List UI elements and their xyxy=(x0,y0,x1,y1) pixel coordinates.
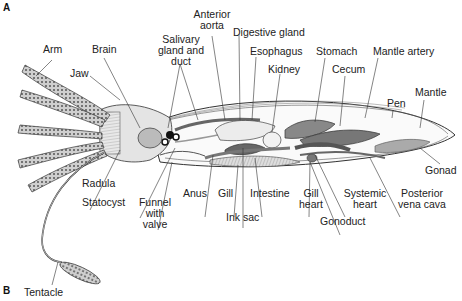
label-gill-heart: Gill heart xyxy=(299,188,323,210)
panel-label-b: B xyxy=(3,285,10,296)
label-posterior-vena-cava: Posterior vena cava xyxy=(396,188,448,210)
label-tentacle: Tentacle xyxy=(24,287,63,298)
label-mantle-artery: Mantle artery xyxy=(373,46,434,57)
label-gonad: Gonad xyxy=(425,165,457,176)
label-esophagus: Esophagus xyxy=(250,46,303,57)
label-gonoduct: Gonoduct xyxy=(320,216,366,227)
label-radula: Radula xyxy=(82,178,115,189)
label-ink-sac: Ink sac xyxy=(226,212,259,223)
panel-label-a: A xyxy=(3,2,10,13)
label-digestive-gland: Digestive gland xyxy=(233,27,305,38)
label-systemic-heart: Systemic heart xyxy=(343,188,387,210)
label-jaw: Jaw xyxy=(70,68,89,79)
squid-anatomy-diagram: A B Arm Brain Jaw Salivary gland and duc… xyxy=(0,0,462,301)
label-salivary-gland: Salivary gland and duct xyxy=(156,34,206,67)
label-mantle: Mantle xyxy=(415,87,447,98)
label-anterior-aorta: Anterior aorta xyxy=(190,9,234,31)
label-funnel-with-valve: Funnel with valve xyxy=(138,197,172,230)
arms xyxy=(18,65,110,192)
label-gill: Gill xyxy=(218,188,233,199)
label-brain: Brain xyxy=(92,44,117,55)
label-cecum: Cecum xyxy=(332,64,365,75)
label-stomach: Stomach xyxy=(316,46,357,57)
label-arm: Arm xyxy=(43,44,62,55)
label-statocyst: Statocyst xyxy=(82,197,125,208)
label-pen: Pen xyxy=(387,98,406,109)
label-anus: Anus xyxy=(183,188,207,199)
label-intestine: Intestine xyxy=(250,188,290,199)
label-kidney: Kidney xyxy=(268,64,300,75)
